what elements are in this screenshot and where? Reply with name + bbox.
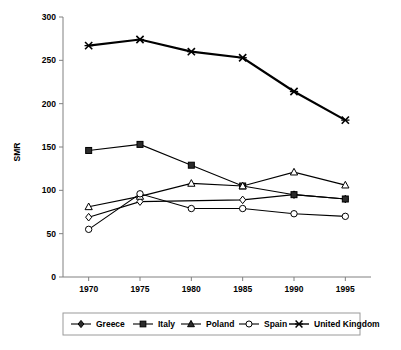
x-tick-label: 1995 xyxy=(336,284,355,294)
y-tick-label: 200 xyxy=(42,99,56,109)
y-tick-label: 0 xyxy=(51,272,56,282)
marker-square xyxy=(140,321,146,327)
x-axis-ticks: 197019751980198519901995 xyxy=(79,277,355,294)
marker-cross xyxy=(290,88,298,95)
y-tick-label: 100 xyxy=(42,185,56,195)
marker-square xyxy=(342,196,348,202)
marker-cross xyxy=(136,36,144,43)
marker-diamond xyxy=(240,196,246,204)
y-tick-label: 150 xyxy=(42,142,56,152)
x-tick-label: 1985 xyxy=(233,284,252,294)
marker-circle xyxy=(188,205,194,211)
x-tick-label: 1980 xyxy=(182,284,201,294)
marker-triangle xyxy=(188,180,195,187)
marker-square xyxy=(291,192,297,198)
marker-cross xyxy=(85,42,93,49)
legend-label: Spain xyxy=(264,319,287,329)
marker-circle xyxy=(291,211,297,217)
marker-square xyxy=(188,162,194,168)
line-chart: 050100150200250300 197019751980198519901… xyxy=(0,0,401,350)
series-italy xyxy=(86,141,349,202)
y-axis-ticks: 050100150200250300 xyxy=(42,12,63,282)
y-axis-title: SMR xyxy=(12,143,22,162)
marker-circle xyxy=(239,205,245,211)
marker-cross xyxy=(341,117,349,124)
legend-label: United Kingdom xyxy=(314,319,380,329)
marker-triangle xyxy=(290,168,297,175)
x-tick-label: 1990 xyxy=(285,284,304,294)
marker-cross xyxy=(239,54,247,61)
x-tick-label: 1975 xyxy=(131,284,150,294)
marker-circle xyxy=(342,213,348,219)
y-tick-label: 300 xyxy=(42,12,56,22)
legend-label: Greece xyxy=(96,319,125,329)
legend-label: Italy xyxy=(158,319,175,329)
legend-label: Poland xyxy=(206,319,234,329)
series-poland xyxy=(85,168,349,209)
marker-square xyxy=(86,147,92,153)
marker-circle xyxy=(85,226,91,232)
data-series-group xyxy=(85,36,350,233)
chart-legend: GreeceItalyPolandSpainUnited Kingdom xyxy=(63,313,380,335)
series-united-kingdom xyxy=(85,36,350,124)
series-spain xyxy=(85,191,348,233)
marker-diamond xyxy=(86,213,92,221)
chart-container: 050100150200250300 197019751980198519901… xyxy=(0,0,401,350)
marker-cross xyxy=(187,48,195,55)
marker-square xyxy=(137,141,143,147)
marker-circle xyxy=(137,191,143,197)
y-tick-label: 250 xyxy=(42,55,56,65)
y-tick-label: 50 xyxy=(47,229,57,239)
marker-circle xyxy=(246,321,252,327)
x-tick-label: 1970 xyxy=(79,284,98,294)
